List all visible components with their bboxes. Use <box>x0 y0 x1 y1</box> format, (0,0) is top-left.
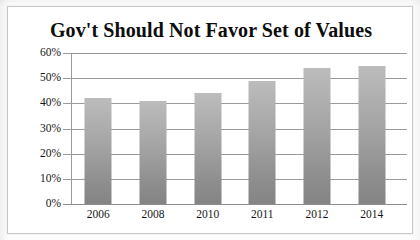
bar-slot <box>126 53 181 204</box>
y-axis-tick-label: 50% <box>40 72 61 84</box>
x-axis-tick-label: 2006 <box>87 207 110 221</box>
x-axis-tick-label: 2008 <box>142 207 165 221</box>
bar-slot <box>344 53 399 204</box>
bar-slot <box>180 53 235 204</box>
y-axis-tick-label: 30% <box>40 123 61 135</box>
plot-area <box>71 53 399 204</box>
x-axis-tick-label: 2011 <box>251 207 274 221</box>
bar <box>358 66 385 204</box>
x-axis-tick-label: 2014 <box>360 207 383 221</box>
y-axis-tick-label: 10% <box>40 173 61 185</box>
chart-title: Gov't Should Not Favor Set of Values <box>8 19 414 42</box>
bar <box>139 101 166 204</box>
bar-series <box>71 53 399 204</box>
y-axis-tick-label: 0% <box>46 198 61 210</box>
y-axis-tick-label: 40% <box>40 98 61 110</box>
bar-slot <box>235 53 290 204</box>
x-axis-tick-labels: 200620082010201120122014 <box>71 207 399 227</box>
y-axis-tick-labels: 60%50%40%30%20%10%0% <box>18 53 66 204</box>
bar <box>303 68 330 204</box>
bar <box>85 98 112 204</box>
x-axis-tick-label: 2012 <box>306 207 329 221</box>
chart-frame: Gov't Should Not Favor Set of Values 60%… <box>7 6 413 234</box>
x-axis-line <box>63 204 407 205</box>
bar <box>249 81 276 204</box>
y-axis-tick-label: 20% <box>40 148 61 160</box>
bar <box>194 93 221 204</box>
bar-slot <box>71 53 126 204</box>
chart-figure: Gov't Should Not Favor Set of Values 60%… <box>0 0 420 240</box>
x-axis-tick-label: 2010 <box>196 207 219 221</box>
y-axis-tick-label: 60% <box>40 47 61 59</box>
bar-slot <box>290 53 345 204</box>
